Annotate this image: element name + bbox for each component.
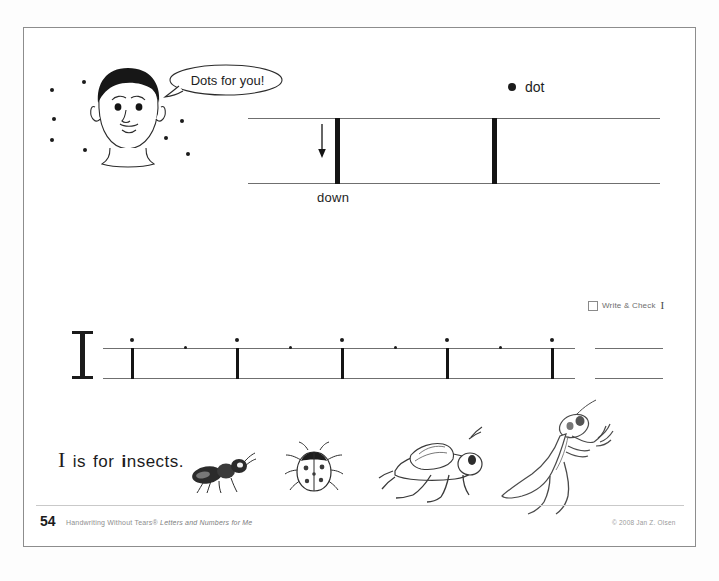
- sentence-word-for: for: [93, 452, 114, 471]
- footer-divider: [36, 505, 684, 506]
- write-check-letter: I: [661, 300, 665, 311]
- scatter-dot: [52, 117, 56, 121]
- sentence-word-is: is: [73, 452, 86, 471]
- dot-legend-label: dot: [525, 79, 544, 95]
- write-check-checkbox[interactable]: [588, 301, 598, 311]
- dot-icon: [508, 83, 516, 91]
- ant-illustration: [185, 450, 257, 494]
- scatter-dot: [180, 119, 184, 123]
- practice-midline-dot: [289, 346, 292, 349]
- practice-baseline-rule: [103, 378, 575, 379]
- demo-top-rule: [248, 118, 660, 119]
- practice-stroke: [446, 348, 449, 379]
- write-and-check[interactable]: Write & Check I: [588, 300, 664, 311]
- dot-legend: dot: [508, 79, 544, 95]
- praying-mantis-illustration: [500, 398, 620, 516]
- practice-start-dot: [235, 338, 239, 342]
- practice-stroke: [236, 348, 239, 379]
- practice-midline-dot: [184, 346, 187, 349]
- practice-tail-baseline-rule: [595, 378, 663, 379]
- scatter-dot: [50, 88, 54, 92]
- worksheet-page: Dots for you! dot down Write & Check I: [0, 0, 719, 581]
- footer-attribution: Handwriting Without Tears® Letters and N…: [66, 519, 252, 526]
- write-check-label: Write & Check: [602, 301, 656, 310]
- demo-stroke-second: [492, 118, 497, 184]
- practice-top-rule: [103, 348, 575, 349]
- demo-baseline-rule: [248, 183, 660, 184]
- sentence-keyword-rest: nsects.: [127, 452, 184, 471]
- practice-stroke: [131, 348, 134, 379]
- child-face-illustration: [82, 62, 174, 172]
- scatter-dot: [50, 138, 54, 142]
- practice-stroke: [551, 348, 554, 379]
- practice-tail-top-rule: [595, 348, 663, 349]
- sentence-line: Iisforinsects.: [58, 447, 184, 473]
- copyright-notice: © 2008 Jan Z. Olsen: [612, 519, 676, 526]
- ladybug-illustration: [283, 440, 345, 498]
- model-letter-I: [70, 330, 96, 380]
- speech-bubble-text: Dots for you!: [180, 73, 275, 88]
- down-arrow-icon: [315, 124, 329, 160]
- sentence-capital-I: I: [58, 447, 66, 472]
- practice-start-dot: [130, 338, 134, 342]
- practice-start-dot: [445, 338, 449, 342]
- grasshopper-illustration: [375, 425, 483, 505]
- scatter-dot: [186, 152, 190, 156]
- page-number: 54: [40, 513, 56, 529]
- practice-stroke: [341, 348, 344, 379]
- practice-start-dot: [550, 338, 554, 342]
- footer-series: Handwriting Without Tears®: [66, 519, 158, 526]
- demo-stroke-label: down: [317, 190, 349, 205]
- practice-start-dot: [340, 338, 344, 342]
- demo-stroke-first: [335, 118, 340, 184]
- practice-midline-dot: [499, 346, 502, 349]
- practice-midline-dot: [394, 346, 397, 349]
- footer-book-title: Letters and Numbers for Me: [160, 519, 252, 526]
